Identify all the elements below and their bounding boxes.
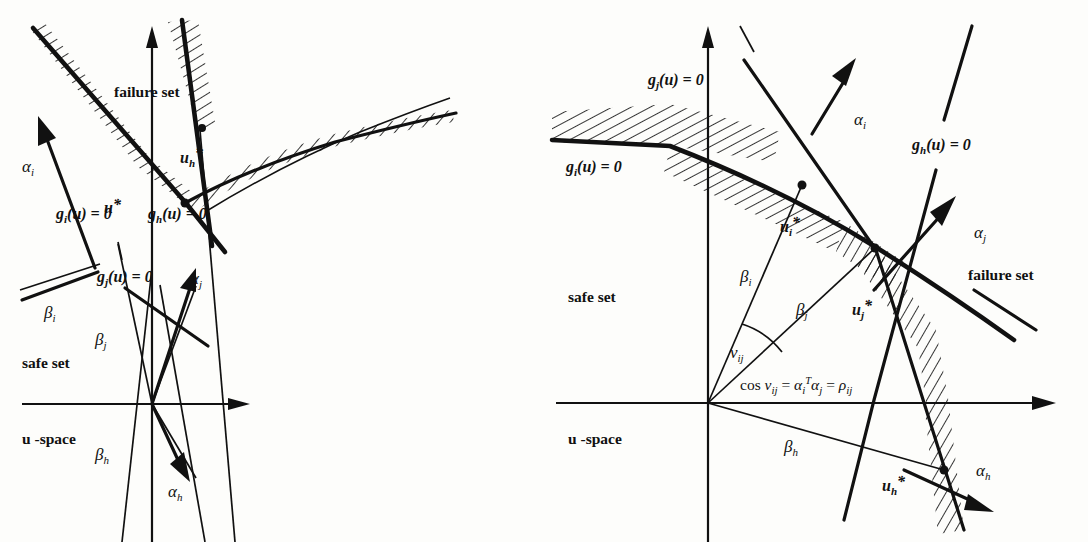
axis-arrow-right: [1032, 396, 1056, 410]
design-point-label-ujstar-right: uj*: [852, 297, 873, 321]
hatch-band-gi-left: [31, 22, 192, 203]
alpha-j-vector-right: [874, 196, 956, 290]
limit-state-curve-gi: [33, 28, 185, 202]
limit-state-label-gh-right: gh(u) = 0: [911, 136, 971, 156]
alpha-i-label-left: αi: [22, 157, 34, 178]
design-point-ujstar-right: [871, 244, 880, 253]
alpha-j-label-right: αj: [974, 223, 986, 244]
safe-set-label-right: safe set: [568, 288, 617, 305]
u-space-label-left: u -space: [22, 430, 76, 447]
limit-state-label-gh-left: gh(u) = 0: [147, 205, 207, 225]
beta-i-label-right: βi: [739, 267, 752, 288]
figure-canvas: failure set safe set u -space gi(u) = 0 …: [0, 0, 1088, 542]
beta-j-label-right: βj: [795, 300, 808, 321]
correlation-formula: cos νij = αiTαj = ρij: [740, 375, 852, 396]
design-point-label-ustar-left: u*: [104, 196, 122, 216]
failure-set-label-left: failure set: [114, 83, 180, 100]
left-panel: failure set safe set u -space gi(u) = 0 …: [0, 0, 544, 542]
angle-label-nu-ij: νij: [730, 343, 744, 364]
alpha-j-vector-left: [152, 268, 196, 404]
beta-i-label-left: βi: [43, 303, 56, 324]
alpha-i-vector-right: [812, 58, 856, 134]
failure-set-pointer-right: [974, 290, 1036, 330]
safe-set-label-left: safe set: [22, 354, 71, 371]
axis-arrow-up: [702, 26, 714, 48]
alpha-i-vector-left: [38, 116, 95, 268]
hatch-band-curve-left: [184, 110, 454, 214]
secondary-curve-left: [205, 98, 450, 212]
alpha-h-label-left: αh: [168, 482, 183, 503]
alpha-i-label-right: αi: [854, 110, 866, 131]
beta-h-label-right: βh: [783, 437, 798, 458]
design-point-label-uhstar-right: uh*: [882, 473, 906, 497]
limit-state-label-gj-right: gj(u) = 0: [647, 71, 704, 91]
beta-j-line-left: [152, 286, 196, 404]
right-panel: failure set safe set u -space gi(u) = 0 …: [544, 0, 1088, 542]
axis-arrow-right: [228, 398, 250, 410]
limit-state-line-gh-right: [944, 26, 972, 120]
design-point-uhstar-right: [940, 466, 949, 475]
hatch-band-gh-left: [168, 20, 216, 130]
alpha-j-label-left: αj: [190, 269, 202, 290]
failure-set-label-right: failure set: [968, 266, 1034, 283]
hatch-band-gi-right: [552, 104, 780, 162]
u-space-label-right: u -space: [568, 430, 622, 447]
angle-arc-nu-ij: [742, 324, 782, 352]
design-point-uhstar-left: [198, 124, 206, 132]
axis-arrow-up: [146, 26, 158, 48]
alpha-h-label-right: αh: [976, 461, 991, 482]
beta-h-label-left: βh: [94, 445, 109, 466]
beta-j-label-left: βj: [94, 330, 107, 351]
alpha-h-vector-left: [152, 404, 190, 482]
hatch-wedge-uj-right: [858, 246, 948, 402]
limit-state-label-gj-left: gj(u) = 0: [96, 268, 153, 288]
limit-state-label-gi-right: gi(u) = 0: [565, 158, 622, 178]
design-point-uistar-right: [798, 181, 807, 190]
beta-h-line-right: [708, 403, 944, 470]
gj-pointer-right: [740, 26, 754, 52]
